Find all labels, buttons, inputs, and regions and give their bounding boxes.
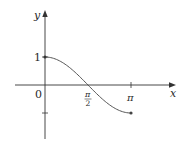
y-axis-arrow-icon bbox=[42, 10, 47, 17]
cosine-plot: y x 1 0 π 2 π bbox=[0, 0, 181, 146]
x-tick-label-pi-over-2-den: 2 bbox=[86, 99, 91, 108]
y-axis-label: y bbox=[33, 9, 41, 22]
x-axis-label: x bbox=[170, 87, 177, 100]
y-tick-label-1: 1 bbox=[34, 51, 41, 64]
x-tick-label-0: 0 bbox=[35, 88, 42, 101]
endpoint-start bbox=[43, 55, 46, 58]
x-tick-label-pi: π bbox=[126, 92, 134, 103]
x-tick-label-pi-over-2-num: π bbox=[84, 90, 91, 99]
endpoint-end bbox=[129, 111, 132, 114]
